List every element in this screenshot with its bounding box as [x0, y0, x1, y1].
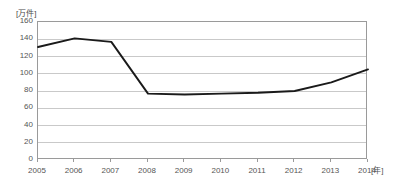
- y-tick-label-140: 140: [0, 34, 33, 42]
- x-tickmark-2005: [37, 159, 38, 162]
- x-tickmark-2010: [220, 159, 221, 162]
- x-tickmark-2011: [257, 159, 258, 162]
- x-tick-label-2009: 2009: [175, 166, 193, 175]
- x-tick-label-2012: 2012: [285, 166, 303, 175]
- x-axis-unit-label: [年]: [371, 166, 383, 175]
- x-tickmark-2012: [293, 159, 294, 162]
- x-tickmark-2009: [183, 159, 184, 162]
- x-tick-label-2013: 2013: [321, 166, 339, 175]
- line-chart: [万件] 020406080100120140160 2005200620072…: [0, 0, 393, 192]
- y-tick-label-160: 160: [0, 17, 33, 25]
- x-tick-label-2007: 2007: [101, 166, 119, 175]
- y-tick-label-40: 40: [0, 121, 33, 129]
- x-tickmark-2014: [367, 159, 368, 162]
- x-tick-label-2010: 2010: [211, 166, 229, 175]
- x-tickmark-2007: [110, 159, 111, 162]
- x-tick-label-2005: 2005: [28, 166, 46, 175]
- plot-area: [37, 21, 367, 159]
- y-tick-label-80: 80: [0, 86, 33, 94]
- x-tickmark-2013: [330, 159, 331, 162]
- x-tick-label-2011: 2011: [248, 166, 265, 175]
- series-line-件数: [38, 38, 368, 94]
- y-tick-label-120: 120: [0, 52, 33, 60]
- y-tick-label-20: 20: [0, 138, 33, 146]
- y-tick-label-100: 100: [0, 69, 33, 77]
- x-tickmark-2008: [147, 159, 148, 162]
- y-tick-label-60: 60: [0, 103, 33, 111]
- x-tickmark-2006: [73, 159, 74, 162]
- x-tick-label-2008: 2008: [138, 166, 156, 175]
- series-line-layer: [38, 22, 368, 160]
- y-tick-label-0: 0: [0, 155, 33, 163]
- x-tick-label-2006: 2006: [65, 166, 83, 175]
